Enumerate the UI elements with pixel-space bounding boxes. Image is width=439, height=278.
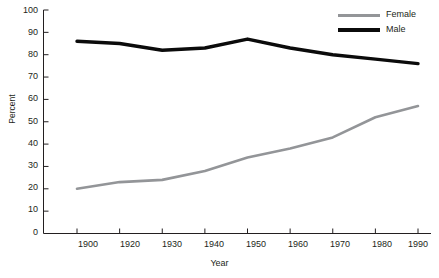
legend: Female Male [338, 8, 434, 38]
series-line-female [77, 106, 418, 189]
legend-label-male: Male [386, 23, 406, 36]
legend-swatch-female-icon [338, 14, 380, 17]
plot-area [0, 0, 439, 278]
x-tick-marks [77, 229, 418, 234]
series-line-male [77, 39, 418, 64]
line-chart: Percent 100 90 80 70 60 50 40 30 20 10 0… [0, 0, 439, 278]
legend-swatch-male-icon [338, 28, 380, 32]
legend-item-female: Female [338, 8, 434, 23]
legend-item-male: Male [338, 23, 434, 38]
legend-label-female: Female [386, 8, 416, 21]
y-tick-marks [44, 10, 49, 234]
